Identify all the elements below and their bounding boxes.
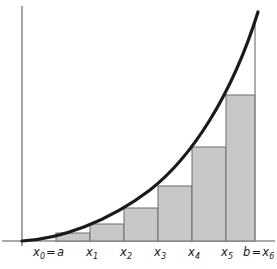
riemann-bar-6 (226, 95, 255, 241)
tick-sub-5: 5 (228, 252, 233, 261)
riemann-bar-3 (124, 208, 158, 241)
tick-label-x5: x5 (221, 247, 233, 259)
tick-a: a (57, 245, 64, 259)
tick-eq-b: = (251, 245, 263, 259)
tick-sub-0: 0 (40, 252, 45, 261)
riemann-rectangles (56, 95, 255, 241)
riemann-sum-figure: x0=a x1 x2 x3 x4 x5 b=x6 (0, 0, 277, 269)
tick-eq-a: = (45, 245, 57, 259)
tick-sub-6: 6 (269, 252, 274, 261)
tick-sub-4: 4 (195, 252, 200, 261)
tick-label-x2: x2 (120, 247, 132, 259)
tick-label-x4: x4 (188, 247, 200, 259)
plot-canvas (0, 0, 277, 269)
tick-label-x1: x1 (86, 247, 98, 259)
tick-label-x3: x3 (154, 247, 166, 259)
tick-label-x0: x0=a (33, 247, 64, 259)
tick-sub-2: 2 (127, 252, 132, 261)
riemann-bar-5 (192, 147, 226, 241)
tick-sub-3: 3 (161, 252, 166, 261)
tick-sub-1: 1 (93, 252, 98, 261)
tick-b: b (243, 245, 251, 259)
riemann-bar-2 (90, 224, 124, 241)
riemann-bar-4 (158, 186, 192, 241)
tick-label-x6: b=x6 (243, 247, 274, 259)
